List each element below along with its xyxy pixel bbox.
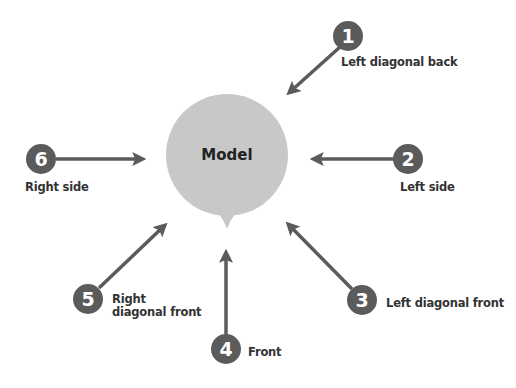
badge-2: 2 — [393, 144, 423, 174]
label-left-diagonal-back: Left diagonal back — [341, 56, 457, 69]
badge-3: 3 — [347, 285, 377, 315]
badge-6: 6 — [26, 144, 56, 174]
label-left-side: Left side — [400, 181, 455, 194]
arrow-5 — [99, 227, 163, 288]
label-front: Front — [248, 346, 281, 359]
label-right-diagonal-front: Right diagonal front — [112, 293, 202, 319]
badge-1: 1 — [333, 21, 363, 51]
badge-5: 5 — [73, 284, 103, 314]
label-left-diagonal-front: Left diagonal front — [386, 297, 504, 310]
model-label: Model — [167, 146, 287, 164]
arrow-1 — [291, 47, 340, 91]
arrow-3 — [290, 226, 352, 289]
badge-4: 4 — [211, 334, 241, 364]
label-right-side: Right side — [25, 181, 89, 194]
